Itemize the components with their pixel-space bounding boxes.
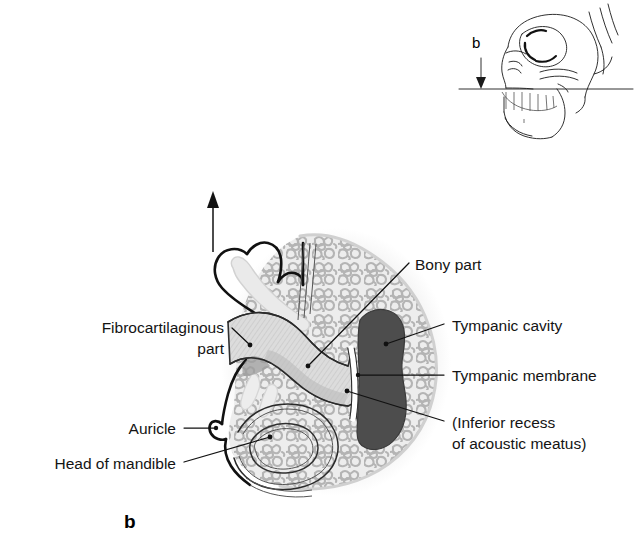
label-fibrocartilaginous-part: Fibrocartilaginous part [102,319,225,357]
label-inferior-recess-of-acoustic-meatus: (Inferior recess of acoustic meatus) [452,414,586,452]
tympanic-cavity [357,309,406,449]
label-head-of-mandible: Head of mandible [55,455,177,472]
label-fibrocartilaginous-part-line1: Fibrocartilaginous [102,319,225,336]
label-inferior-recess-line1: (Inferior recess [452,414,556,431]
inset-panel-letter: b [472,34,480,51]
label-tympanic-cavity-line1: Tympanic cavity [452,317,563,334]
label-auricle: Auricle [129,420,176,437]
inset-skull-drawing [502,4,618,139]
inset-down-arrow-icon [476,58,486,89]
label-tympanic-cavity: Tympanic cavity [452,317,563,334]
skull-orientation-inset: b [459,4,633,139]
label-fibrocartilaginous-part-line2: part [197,340,224,357]
superior-direction-arrow-icon [207,191,219,252]
anatomical-figure-root: b [0,0,637,556]
label-tympanic-membrane: Tympanic membrane [452,367,597,384]
label-tympanic-membrane-line1: Tympanic membrane [452,367,597,384]
label-inferior-recess-line2: of acoustic meatus) [452,435,586,452]
label-head-of-mandible-line1: Head of mandible [55,455,177,472]
panel-letter-b: b [124,511,136,532]
figure-canvas: b [0,0,637,556]
label-bony-part: Bony part [415,256,482,273]
label-bony-part-line1: Bony part [415,256,482,273]
label-auricle-line1: Auricle [129,420,176,437]
